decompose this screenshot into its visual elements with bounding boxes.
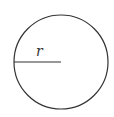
radius-label: r — [36, 43, 44, 59]
circle-diagram: r — [0, 0, 114, 117]
